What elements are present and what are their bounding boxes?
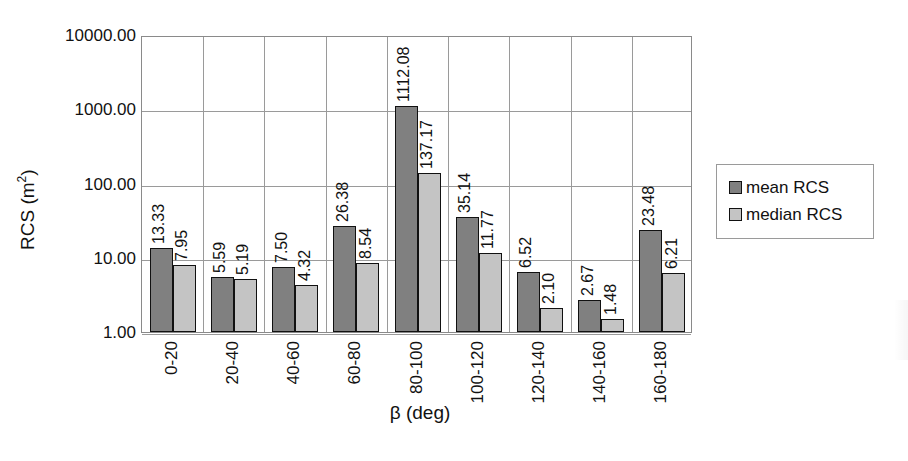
bar [479, 253, 502, 333]
x-axis-title: β (deg) [330, 402, 510, 424]
bar [418, 173, 441, 332]
x-axis-tick-label-text: 120-140 [529, 341, 549, 403]
x-gridline [326, 37, 327, 332]
bar-value-label: 4.32 [296, 250, 314, 281]
x-axis-tick-label: 20-40 [202, 341, 263, 411]
bar [639, 230, 662, 332]
bar-value-label: 5.59 [211, 241, 229, 272]
bar [578, 300, 601, 332]
x-axis-tick-label: 120-140 [508, 341, 569, 411]
bar-value-label: 8.54 [357, 228, 375, 259]
x-axis-tick-label: 40-60 [264, 341, 325, 411]
bar-value-label: 26.38 [334, 182, 352, 222]
bar [211, 277, 234, 332]
x-axis-tick-label-text: 40-60 [284, 341, 304, 384]
x-axis-tick-label-text: 0-20 [162, 341, 182, 375]
bar-value-label: 23.48 [640, 186, 658, 226]
x-axis-tick-label-text: 100-120 [468, 341, 488, 403]
bar-value-label: 6.52 [517, 236, 535, 267]
bar-value-label: 7.95 [173, 230, 191, 261]
bar [662, 273, 685, 332]
bar-value-label: 35.14 [456, 173, 474, 213]
bar [272, 267, 295, 332]
x-axis-tick-label: 60-80 [325, 341, 386, 411]
x-gridline [264, 37, 265, 332]
y-axis-tick-labels: 10000.001000.00100.0010.001.00 [0, 0, 136, 461]
x-axis-tick-label-text: 140-160 [590, 341, 610, 403]
x-axis-tick-label: 100-120 [447, 341, 508, 411]
x-axis-tick-label: 0-20 [141, 341, 202, 411]
bar [173, 265, 196, 332]
x-axis-tick-label-text: 20-40 [223, 341, 243, 384]
y-axis-tick-label: 10.00 [6, 250, 136, 267]
x-axis-tick-label-text: 160-180 [651, 341, 671, 403]
bar-value-label: 6.21 [663, 238, 681, 269]
legend: mean RCSmedian RCS [716, 164, 874, 239]
y-axis-tick-label: 100.00 [6, 176, 136, 193]
x-gridline [509, 37, 510, 332]
bar-value-label: 2.10 [540, 273, 558, 304]
y-axis-tick-label: 1.00 [6, 324, 136, 341]
bar [395, 106, 418, 332]
bar [601, 319, 624, 332]
scan-artifact [894, 300, 908, 360]
bar-value-label: 7.50 [273, 232, 291, 263]
legend-label: median RCS [746, 205, 842, 225]
x-axis-tick-label-text: 80-100 [407, 341, 427, 394]
bar [540, 308, 563, 332]
bar-value-label: 1112.08 [395, 46, 413, 101]
x-axis-tick-label: 160-180 [631, 341, 692, 411]
bar [456, 217, 479, 332]
legend-label: mean RCS [746, 178, 829, 198]
x-gridline [203, 37, 204, 332]
x-gridline [448, 37, 449, 332]
legend-swatch-icon [729, 208, 742, 221]
bar [356, 263, 379, 332]
x-gridline [387, 37, 388, 332]
bar [517, 272, 540, 332]
y-axis-tick-label: 1000.00 [6, 101, 136, 118]
legend-item: mean RCS [729, 174, 863, 201]
bar-value-label: 11.77 [479, 210, 497, 249]
y-gridline [142, 334, 691, 335]
bar-value-label: 1.48 [602, 284, 620, 315]
x-gridline [632, 37, 633, 332]
legend-swatch-icon [729, 181, 742, 194]
y-axis-tick-label: 10000.00 [6, 27, 136, 44]
bar [234, 279, 257, 332]
plot-area: 13.337.955.595.197.504.3226.388.541112.0… [141, 36, 692, 333]
bar-value-label: 13.33 [150, 204, 168, 244]
x-axis-tick-label: 80-100 [386, 341, 447, 411]
bar [333, 226, 356, 332]
x-axis-tick-label: 140-160 [570, 341, 631, 411]
bar-value-label: 5.19 [234, 244, 252, 275]
bar-value-label: 2.67 [579, 265, 597, 296]
x-axis-tick-label-text: 60-80 [345, 341, 365, 384]
bar-value-label: 137.17 [418, 120, 436, 169]
rcs-bar-chart: RCS (m2) 10000.001000.00100.0010.001.00 … [0, 0, 908, 461]
bar [295, 285, 318, 332]
x-gridline [571, 37, 572, 332]
legend-item: median RCS [729, 201, 863, 228]
bar [150, 248, 173, 332]
